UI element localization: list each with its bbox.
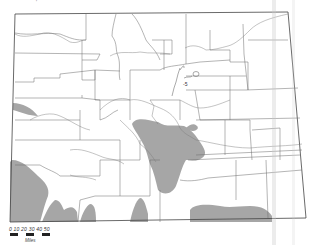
scale-unit: Miles — [25, 238, 69, 243]
scan-artifact — [272, 0, 276, 245]
state-outline — [10, 12, 306, 222]
scale-bar: 0 10 20 30 40 50 Miles — [9, 226, 69, 244]
top-marker: ' — [36, 0, 37, 5]
shaded-regions — [10, 103, 272, 222]
scale-segments — [9, 233, 69, 237]
scale-ticks: 0 10 20 30 40 50 — [9, 226, 69, 232]
city-marker-label: -5 — [183, 81, 188, 87]
county-boundaries — [15, 14, 302, 222]
scan-artifact — [292, 0, 295, 245]
